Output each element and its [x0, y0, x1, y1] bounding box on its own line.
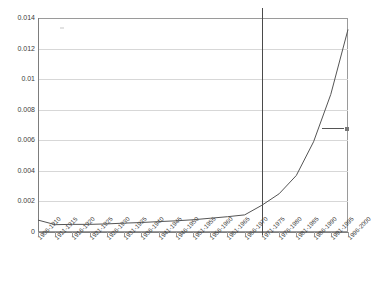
y-axis-tick-label: 0.01 [21, 75, 35, 82]
gridline [38, 49, 348, 50]
stray-artifact [60, 27, 64, 29]
y-axis-tick-label: 0.002 [17, 197, 35, 204]
y-axis-tick-label: 0.006 [17, 136, 35, 143]
y-axis-tick-label: 0.008 [17, 106, 35, 113]
y-axis-line [38, 18, 39, 233]
gridline [38, 201, 348, 202]
y-axis-tick-label: 0 [31, 228, 35, 235]
gridline [38, 140, 348, 141]
legend-swatch-marker [345, 127, 349, 131]
gridline [38, 79, 348, 80]
gridline [38, 110, 348, 111]
y-axis-tick-label: 0.012 [17, 45, 35, 52]
y-axis-tick-label: 0.014 [17, 14, 35, 21]
y-axis-tick-labels: 0.0140.0120.010.0080.0060.0040.0020 [0, 0, 35, 285]
legend [322, 121, 354, 136]
plot-area [38, 18, 348, 232]
legend-swatch-line [322, 128, 344, 129]
vertical-reference-line [262, 8, 263, 235]
y-axis-tick-label: 0.004 [17, 167, 35, 174]
gridline [38, 171, 348, 172]
